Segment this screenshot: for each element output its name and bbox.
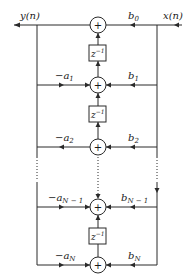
coef-a1: −a1 — [55, 70, 74, 83]
svg-text:+: + — [94, 20, 102, 31]
svg-text:+: + — [94, 142, 102, 153]
filter-diagram: + + + + + z−1 z−1 z−1 y(n) x(n) b0 −a1 b… — [0, 0, 191, 280]
adder-1: + — [90, 77, 106, 93]
delay-1: z−1 — [89, 45, 106, 61]
feedback-arrow-icon — [59, 205, 64, 210]
coef-a-n-minus-1: −aN − 1 — [48, 192, 83, 205]
up-arrow-icon — [96, 61, 101, 66]
coef-b1: b1 — [128, 70, 139, 83]
coef-b-n: bN — [128, 250, 141, 263]
b0-arrow-icon — [130, 23, 135, 28]
feedforward-arrow-icon — [106, 263, 111, 268]
feedback-arrow-icon — [85, 205, 90, 210]
output-label: y(n) — [19, 10, 40, 21]
feedforward-arrow-icon — [130, 263, 135, 268]
adder-n-minus-1: + — [90, 199, 106, 215]
adder-0: + — [90, 17, 106, 33]
feedback-arrow-icon — [59, 83, 64, 88]
coef-b-n-minus-1: bN − 1 — [121, 192, 148, 205]
coef-b0: b0 — [128, 10, 139, 23]
feedback-arrow-icon — [85, 263, 90, 268]
right-rail-arrow-icon — [155, 188, 160, 193]
svg-text:+: + — [94, 260, 102, 271]
adder-n: + — [90, 257, 106, 273]
feedforward-arrow-icon — [130, 83, 135, 88]
up-arrow-icon — [96, 122, 101, 127]
coef-a-n: −aN — [55, 250, 76, 263]
feedforward-arrow-icon — [106, 145, 111, 150]
feedback-arrow-icon — [85, 83, 90, 88]
up-arrow-icon — [96, 93, 101, 98]
delay-n: z−1 — [89, 228, 106, 244]
feedforward-arrow-icon — [106, 205, 111, 210]
coef-a2: −a2 — [55, 132, 74, 145]
up-arrow-icon — [96, 194, 101, 199]
up-arrow-icon — [96, 215, 101, 220]
output-arrow-icon — [14, 23, 20, 28]
adder-2: + — [90, 139, 106, 155]
svg-text:+: + — [94, 80, 102, 91]
feedforward-arrow-icon — [106, 83, 111, 88]
feedforward-arrow-icon — [130, 205, 135, 210]
svg-text:+: + — [94, 202, 102, 213]
feedback-arrow-icon — [59, 263, 64, 268]
up-arrow-icon — [96, 33, 101, 38]
feedforward-arrow-icon — [130, 145, 135, 150]
coef-b2: b2 — [128, 132, 139, 145]
input-label: x(n) — [163, 10, 183, 21]
delay-2: z−1 — [89, 106, 106, 122]
feedback-arrow-icon — [59, 145, 64, 150]
input-arrow-icon — [174, 23, 179, 28]
